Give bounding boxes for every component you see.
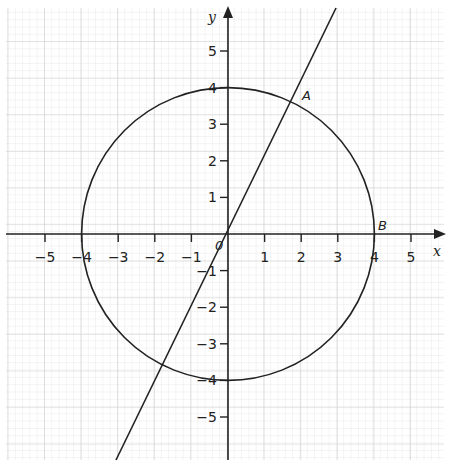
x-tick-label: −4 [71,249,92,265]
origin-label: 0 [215,238,223,253]
y-axis-label: y [207,9,217,25]
x-tick-label: −5 [35,249,56,265]
x-tick-label: 2 [297,249,306,265]
x-tick-label: 1 [260,249,269,265]
y-tick-label: −2 [196,299,217,315]
y-tick-label: 2 [208,153,217,169]
point-a-label: A [301,88,311,103]
x-tick-label: 4 [370,249,379,265]
y-tick-label: 3 [208,116,217,132]
y-tick-label: 1 [208,189,217,205]
x-tick-label: −2 [144,249,165,265]
y-tick-label: 4 [208,80,217,96]
x-tick-label: −3 [108,249,129,265]
y-tick-label: −1 [196,263,217,279]
y-tick-label: 5 [208,43,217,59]
y-tick-label: −4 [196,372,217,388]
y-tick-label: −5 [196,409,217,425]
point-b-label: B [378,218,387,233]
x-tick-label: 5 [407,249,416,265]
coordinate-graph: −5 −4 −3 −2 −1 1 2 3 4 5 5 4 3 2 1 −1 −2… [0,0,450,469]
y-tick-label: −3 [196,336,217,352]
x-axis-label: x [433,243,441,259]
x-tick-label: 3 [333,249,342,265]
